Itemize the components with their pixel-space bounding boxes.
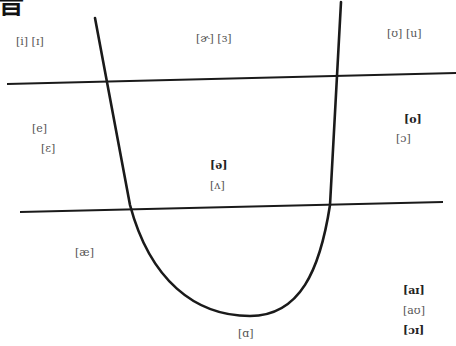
symbol-diphthong-au: [aʊ] <box>403 305 425 316</box>
symbol-script-a: [ɑ] <box>238 328 254 339</box>
symbol-schwa: [ə] <box>210 160 227 171</box>
symbol-open-o: [ɔ] <box>396 133 411 144</box>
symbol-central-high: [ɚ] [ɜ] <box>196 33 232 44</box>
symbol-wedge: [ʌ] <box>210 180 225 191</box>
symbol-diphthong-ai: [aɪ] <box>403 285 425 296</box>
symbol-back-high: [ʊ] [u] <box>387 28 422 39</box>
title-character: 音 <box>0 0 24 17</box>
symbol-epsilon: [ɛ] <box>41 143 55 154</box>
vowel-diagram <box>0 0 456 346</box>
symbol-o: [o] <box>404 114 422 125</box>
symbol-diphthong-oi: [ɔɪ] <box>403 325 424 336</box>
upper-divider-line <box>7 73 456 84</box>
symbol-front-high: [i] [ɪ] <box>16 36 44 47</box>
symbol-ash: [æ] <box>75 247 94 258</box>
symbol-e: [e] <box>32 123 47 134</box>
lower-divider-line <box>20 202 443 212</box>
